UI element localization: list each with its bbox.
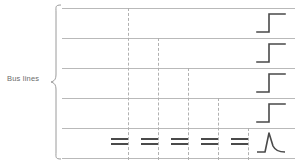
rising-edge-step-icon-row-1	[256, 10, 286, 36]
equal-mark-2	[141, 138, 158, 147]
bus-rule-4	[62, 98, 295, 99]
equal-mark-5	[231, 138, 248, 147]
bus-rule-2	[62, 38, 295, 39]
pulse-spike-icon-row-5	[256, 130, 286, 156]
equal-mark-1	[111, 138, 128, 147]
rising-edge-step-icon-row-3	[256, 70, 286, 96]
equal-mark-3	[171, 138, 188, 147]
dashed-column-4	[218, 98, 219, 160]
dashed-column-1	[128, 8, 129, 160]
dashed-column-5	[248, 128, 249, 160]
left-curly-brace	[50, 4, 62, 160]
rising-edge-step-icon-row-4	[256, 100, 286, 126]
bus-lines-label: Bus lines	[7, 74, 39, 83]
equal-mark-4	[201, 138, 218, 147]
dashed-column-3	[188, 68, 189, 160]
bus-lines-timing-diagram: Bus lines	[0, 0, 295, 164]
dashed-column-2	[158, 38, 159, 160]
bus-rule-1	[62, 8, 295, 9]
bus-rule-5	[62, 128, 295, 129]
diagram-canvas	[62, 0, 295, 164]
bus-rule-3	[62, 68, 295, 69]
bus-rule-6	[62, 158, 295, 159]
rising-edge-step-icon-row-2	[256, 40, 286, 66]
